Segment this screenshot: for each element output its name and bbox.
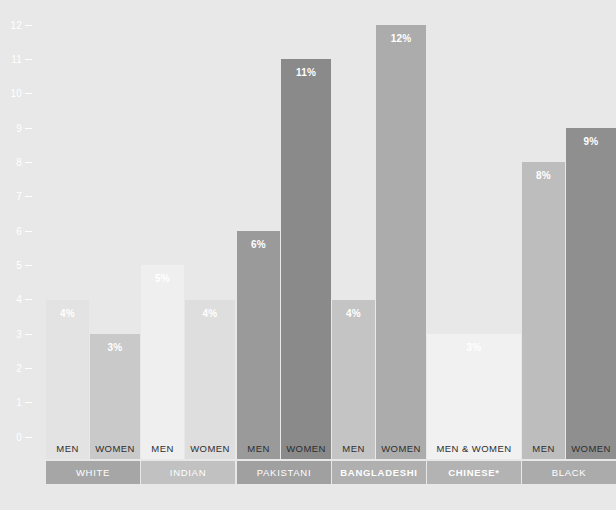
y-axis-tick: 8	[16, 156, 32, 168]
y-axis-tick-mark	[25, 437, 32, 438]
y-axis: 0123456789101112	[0, 0, 32, 437]
bar[interactable]: 4%	[332, 300, 375, 437]
group-label: CHINESE*	[427, 461, 521, 484]
y-axis-tick-mark	[25, 334, 32, 335]
bar-chart: 0123456789101112 4%3%5%4%6%11%4%12%3%8%9…	[0, 0, 616, 510]
y-axis-tick-label: 6	[16, 226, 22, 237]
y-axis-tick-label: 2	[16, 363, 22, 374]
group-label: WHITE	[46, 461, 140, 484]
y-axis-tick: 11	[11, 53, 32, 65]
y-axis-tick: 10	[10, 88, 32, 100]
bar-value-label: 3%	[427, 342, 521, 353]
bar-sub-label: MEN	[141, 437, 184, 459]
y-axis-tick-label: 5	[16, 260, 22, 271]
y-axis-tick-mark	[25, 368, 32, 369]
bar[interactable]: 9%	[566, 128, 616, 437]
y-axis-tick: 0	[16, 431, 32, 443]
bar[interactable]: 3%	[90, 334, 140, 437]
y-axis-tick: 1	[16, 397, 32, 409]
bar-sub-label: WOMEN	[281, 437, 331, 459]
y-axis-tick-label: 3	[16, 329, 22, 340]
group-label-row: WHITEINDIANPAKISTANIBANGLADESHICHINESE*B…	[32, 461, 616, 484]
y-axis-tick-mark	[25, 299, 32, 300]
y-axis-tick-label: 4	[16, 294, 22, 305]
bar[interactable]: 4%	[46, 300, 89, 437]
bar-sub-label: WOMEN	[376, 437, 426, 459]
bar-value-label: 11%	[281, 67, 331, 78]
y-axis-tick-label: 9	[16, 123, 22, 134]
y-axis-tick-mark	[25, 93, 32, 94]
y-axis-tick-mark	[25, 162, 32, 163]
bar-sub-label: WOMEN	[90, 437, 140, 459]
bar[interactable]: 12%	[376, 25, 426, 437]
group-label: BLACK	[522, 461, 616, 484]
y-axis-tick-label: 11	[11, 54, 22, 65]
bar[interactable]: 6%	[237, 231, 280, 437]
bar-sub-label: MEN	[522, 437, 565, 459]
y-axis-tick-label: 10	[10, 88, 22, 99]
y-axis-tick-mark	[25, 231, 32, 232]
bar-sub-label: MEN	[46, 437, 89, 459]
y-axis-tick-label: 8	[16, 157, 22, 168]
group-label: INDIAN	[141, 461, 235, 484]
bar-sub-label: MEN	[237, 437, 280, 459]
y-axis-tick: 5	[16, 259, 32, 271]
bar[interactable]: 5%	[141, 265, 184, 437]
y-axis-tick-label: 7	[16, 191, 22, 202]
y-axis-tick-mark	[25, 265, 32, 266]
group-label: PAKISTANI	[237, 461, 331, 484]
bar[interactable]: 8%	[522, 162, 565, 437]
bar[interactable]: 11%	[281, 59, 331, 437]
bar-value-label: 3%	[90, 342, 140, 353]
bar-sub-label: WOMEN	[185, 437, 235, 459]
y-axis-tick-mark	[25, 196, 32, 197]
sub-label-row: MENWOMENMENWOMENMENWOMENMENWOMENMEN & WO…	[32, 437, 616, 459]
bar-value-label: 6%	[237, 239, 280, 250]
y-axis-tick-mark	[25, 59, 32, 60]
bar[interactable]: 4%	[185, 300, 235, 437]
y-axis-tick: 3	[16, 328, 32, 340]
bar-value-label: 12%	[376, 33, 426, 44]
bar-value-label: 5%	[141, 273, 184, 284]
y-axis-tick: 2	[16, 362, 32, 374]
y-axis-tick: 4	[16, 294, 32, 306]
bar-value-label: 4%	[332, 308, 375, 319]
bar-sub-label: MEN	[332, 437, 375, 459]
y-axis-tick-mark	[25, 128, 32, 129]
bar[interactable]: 3%	[427, 334, 521, 437]
bar-sub-label: WOMEN	[566, 437, 616, 459]
y-axis-tick: 7	[16, 191, 32, 203]
y-axis-tick-mark	[25, 402, 32, 403]
y-axis-tick-label: 1	[16, 397, 22, 408]
y-axis-tick-label: 0	[16, 432, 22, 443]
y-axis-tick: 9	[16, 122, 32, 134]
plot-area: 4%3%5%4%6%11%4%12%3%8%9%	[32, 0, 616, 437]
bar-value-label: 4%	[46, 308, 89, 319]
bar-value-label: 4%	[185, 308, 235, 319]
y-axis-tick: 12	[10, 19, 32, 31]
bar-value-label: 9%	[566, 136, 616, 147]
y-axis-tick-label: 12	[10, 20, 22, 31]
y-axis-tick-mark	[25, 25, 32, 26]
group-label: BANGLADESHI	[332, 461, 426, 484]
bar-value-label: 8%	[522, 170, 565, 181]
bar-sub-label: MEN & WOMEN	[427, 437, 521, 459]
y-axis-tick: 6	[16, 225, 32, 237]
